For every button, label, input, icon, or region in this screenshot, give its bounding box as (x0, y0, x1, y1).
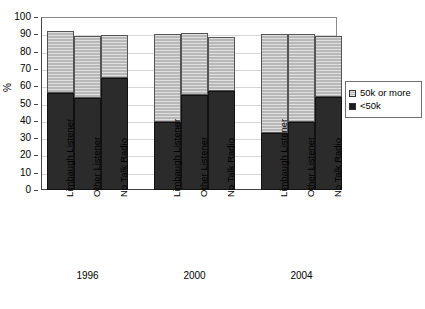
x-category-label: No Talk Radio (333, 138, 343, 197)
bar-segment-50k-or-more[interactable] (74, 36, 101, 98)
x-category-label: Other Listener (306, 137, 316, 197)
y-tick-label: 20 (20, 150, 31, 160)
bar-segment-50k-or-more[interactable] (288, 34, 315, 121)
x-category-label: Limbaugh Listener (279, 119, 289, 197)
bar-segment-50k-or-more[interactable] (101, 35, 128, 77)
y-tick-mark (34, 138, 38, 139)
legend-swatch-icon (349, 90, 356, 97)
legend-swatch-icon (349, 103, 356, 110)
y-tick-mark (34, 52, 38, 53)
x-category-label: No Talk Radio (226, 138, 236, 197)
x-group-label: 2004 (261, 270, 342, 281)
y-tick-mark (34, 86, 38, 87)
y-tick-mark (34, 173, 38, 174)
y-tick-label: 0 (25, 185, 31, 195)
x-category-label: Limbaugh Listener (172, 119, 182, 197)
y-tick-mark (34, 34, 38, 35)
y-tick-label: 30 (20, 133, 31, 143)
y-tick-label: 80 (20, 47, 31, 57)
y-tick-label: 90 (20, 29, 31, 39)
y-tick-label: 10 (20, 168, 31, 178)
y-tick-mark (34, 190, 38, 191)
x-category-label: Other Listener (92, 137, 102, 197)
legend-label: <50k (360, 100, 381, 112)
chart-legend: 50k or more<50k (345, 81, 422, 118)
y-tick-mark (34, 17, 38, 18)
bars-layer (41, 17, 337, 190)
legend-label: 50k or more (360, 87, 411, 99)
y-axis-title: % (2, 83, 13, 92)
legend-item[interactable]: 50k or more (349, 87, 417, 99)
stacked-bar-chart: 0102030405060708090100 % Limbaugh Listen… (0, 0, 425, 309)
y-tick-label: 70 (20, 64, 31, 74)
x-axis-group-labels: 199620002004 (41, 270, 337, 286)
x-group-label: 2000 (154, 270, 235, 281)
y-tick-label: 40 (20, 116, 31, 126)
x-axis-category-labels: Limbaugh ListenerOther ListenerNo Talk R… (41, 191, 337, 271)
bar-segment-50k-or-more[interactable] (47, 31, 74, 93)
legend-item[interactable]: <50k (349, 100, 417, 112)
x-category-label: Limbaugh Listener (65, 119, 75, 197)
y-tick-label: 100 (14, 12, 31, 22)
y-tick-mark (34, 69, 38, 70)
bar-segment-50k-or-more[interactable] (208, 37, 235, 91)
bar-segment-50k-or-more[interactable] (154, 34, 181, 121)
bar-segment-50k-or-more[interactable] (315, 36, 342, 97)
x-group-label: 1996 (47, 270, 128, 281)
x-category-label: Other Listener (199, 137, 209, 197)
y-tick-label: 50 (20, 99, 31, 109)
y-tick-label: 60 (20, 81, 31, 91)
y-tick-mark (34, 121, 38, 122)
y-axis: 0102030405060708090100 (0, 0, 38, 309)
bar-segment-50k-or-more[interactable] (181, 33, 208, 95)
y-tick-mark (34, 155, 38, 156)
y-tick-mark (34, 104, 38, 105)
x-category-label: No Talk Radio (119, 138, 129, 197)
